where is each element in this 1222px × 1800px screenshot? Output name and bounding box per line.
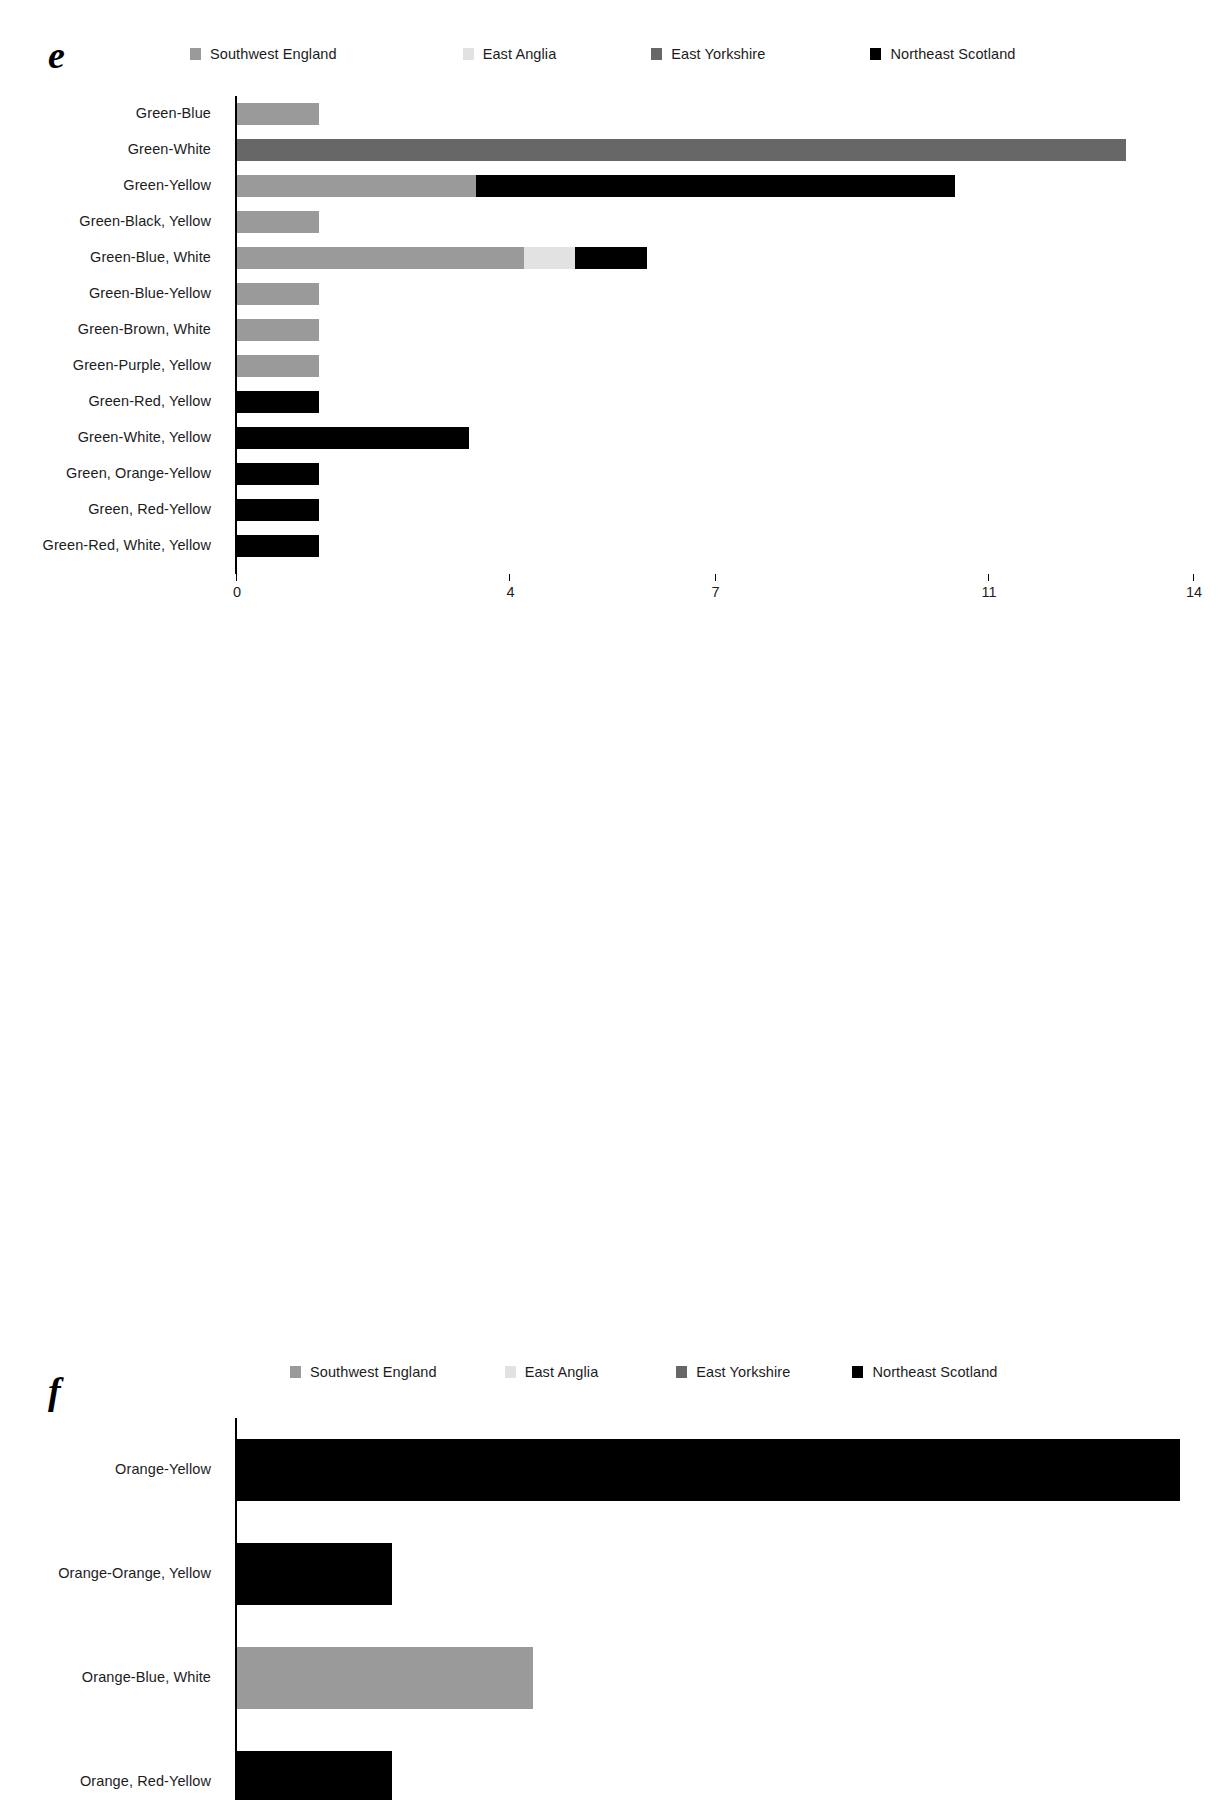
y-axis-line [235,96,237,574]
category-label: Green-Red, Yellow [0,384,223,420]
square-swatch-icon [870,48,881,60]
bar-segment-southwest-england [237,211,319,233]
stacked-bar [237,175,955,197]
x-axis-tick-label: 4 [506,584,514,600]
square-swatch-icon [190,48,201,60]
bar-row: Green, Red-Yellow [0,492,1222,528]
square-swatch-icon [463,48,474,60]
x-axis-tick-label: 11 [981,584,996,600]
legend-item-southwest-england: Southwest England [190,46,337,62]
bar-row: Green-White, Yellow [0,420,1222,456]
stacked-bar [237,427,469,449]
panel-f: Southwest EnglandEast AngliaEast Yorkshi… [0,660,1222,1220]
category-label: Green-Black, Yellow [0,204,223,240]
bar-row: Green-Blue-Yellow [0,276,1222,312]
stacked-bar [237,319,319,341]
panel-letter-e: e [48,36,65,74]
category-label: Green-White, Yellow [0,420,223,456]
bar-row: Green-Brown, White [0,312,1222,348]
square-swatch-icon [651,48,662,60]
stacked-bar [237,247,647,269]
x-axis-tick [715,574,716,581]
legend-panel-e: Southwest EnglandEast AngliaEast Yorkshi… [190,40,1200,68]
panel-g: Southwest EnglandEast AngliaEast Yorkshi… [0,1220,1222,1800]
x-axis-tick [509,574,510,581]
stacked-bar [237,103,319,125]
category-label: Green-Yellow [0,168,223,204]
bar-segment-southwest-england [237,283,319,305]
x-axis-tick-label: 7 [711,584,719,600]
bar-row: Green-Blue, White [0,240,1222,276]
bar-segment-east-yorkshire [237,139,1126,161]
x-axis-tick-label: 0 [233,584,241,600]
bar-row: Green-Red, Yellow [0,384,1222,420]
bar-segment-northeast-scotland [237,499,319,521]
bar-row: Green-Blue [0,96,1222,132]
category-label: Green-Blue, White [0,240,223,276]
bar-segment-southwest-england [237,103,319,125]
category-label: Green-Brown, White [0,312,223,348]
bar-segment-northeast-scotland [575,247,647,269]
legend-item-label: East Yorkshire [671,46,765,62]
bar-row: Green-Yellow [0,168,1222,204]
category-label: Green-Red, White, Yellow [0,528,223,564]
x-axis-tick [236,574,237,581]
bar-segment-southwest-england [237,355,319,377]
bar-segment-northeast-scotland [237,391,319,413]
stacked-bar [237,355,319,377]
legend-item-label: Southwest England [210,46,337,62]
plot-panel-e: Green-BlueGreen-WhiteGreen-YellowGreen-B… [0,96,1222,564]
category-label: Green-White [0,132,223,168]
stacked-bar [237,139,1126,161]
bar-segment-northeast-scotland [237,535,319,557]
legend-item-northeast-scotland: Northeast Scotland [870,46,1015,62]
bar-segment-northeast-scotland [237,463,319,485]
category-label: Green-Blue [0,96,223,132]
legend-item-east-anglia: East Anglia [463,46,557,62]
legend-item-east-yorkshire: East Yorkshire [651,46,765,62]
bar-row: Green-White [0,132,1222,168]
bar-segment-east-anglia [524,247,575,269]
x-axis: 0471114 [0,574,1222,608]
bar-row: Green-Purple, Yellow [0,348,1222,384]
x-axis-tick-label: 14 [1186,584,1202,600]
category-label: Green, Orange-Yellow [0,456,223,492]
stacked-bar [237,211,319,233]
stacked-bar [237,391,319,413]
stacked-bar [237,463,319,485]
stacked-bar [237,283,319,305]
bar-row: Green-Red, White, Yellow [0,528,1222,564]
x-axis-tick [988,574,989,581]
panel-e: e Southwest EnglandEast AngliaEast Yorks… [0,0,1222,660]
bar-segment-northeast-scotland [237,427,469,449]
category-label: Green-Purple, Yellow [0,348,223,384]
bar-segment-southwest-england [237,247,524,269]
legend-item-label: Northeast Scotland [890,46,1015,62]
category-label: Green, Red-Yellow [0,492,223,528]
legend-item-label: East Anglia [483,46,557,62]
bar-segment-northeast-scotland [476,175,955,197]
stacked-bar [237,499,319,521]
bar-row: Green-Black, Yellow [0,204,1222,240]
bar-rows: Green-BlueGreen-WhiteGreen-YellowGreen-B… [0,96,1222,564]
stacked-bar [237,535,319,557]
bar-segment-southwest-england [237,175,476,197]
bar-segment-southwest-england [237,319,319,341]
bar-row: Green, Orange-Yellow [0,456,1222,492]
category-label: Green-Blue-Yellow [0,276,223,312]
x-axis-tick [1193,574,1194,581]
